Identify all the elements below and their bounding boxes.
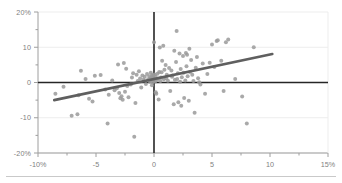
- zero-lines-group: [38, 12, 328, 153]
- y-axis-tick-label: 20%: [0, 8, 31, 17]
- x-axis-tick-label: 10: [250, 160, 290, 169]
- x-axis-tick-label: 0: [134, 160, 174, 169]
- x-axis-tick-label: -10%: [18, 160, 58, 169]
- y-axis-tick-label: -10: [0, 113, 31, 122]
- major-ticks-group: [34, 12, 328, 157]
- y-axis-tick-label: 0: [0, 78, 31, 87]
- y-axis-tick-label: -20%: [0, 149, 31, 158]
- x-axis-tick-label: 5: [192, 160, 232, 169]
- footer-divider: [6, 176, 336, 177]
- plot-canvas: [0, 0, 342, 183]
- x-axis-tick-label: 15%: [308, 160, 342, 169]
- y-axis-tick-label: 10: [0, 43, 31, 52]
- x-axis-tick-label: -5: [76, 160, 116, 169]
- scatter-chart-figure: 20%100-10-20% -10%-5051015%: [0, 0, 342, 183]
- minor-ticks-group: [36, 30, 300, 156]
